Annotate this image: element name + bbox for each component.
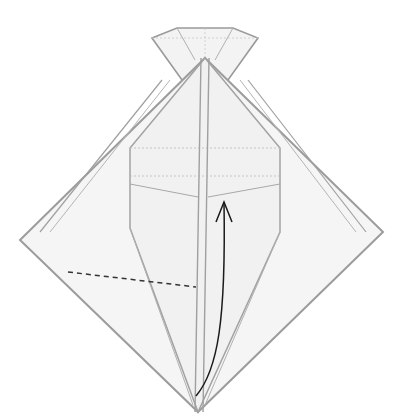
- origami-diagram: Origami diamond base with a narrow kite-…: [0, 0, 396, 414]
